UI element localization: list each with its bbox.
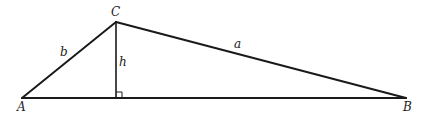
side-b [22,22,116,98]
triangle-diagram: C A B b a h [0,0,427,120]
vertex-label-a: A [16,100,26,114]
side-a [116,22,406,98]
altitude-label-h: h [119,55,127,69]
side-label-b: b [60,45,68,59]
vertex-label-b: B [402,100,412,114]
side-label-a: a [234,37,241,51]
vertex-label-c: C [111,5,120,19]
